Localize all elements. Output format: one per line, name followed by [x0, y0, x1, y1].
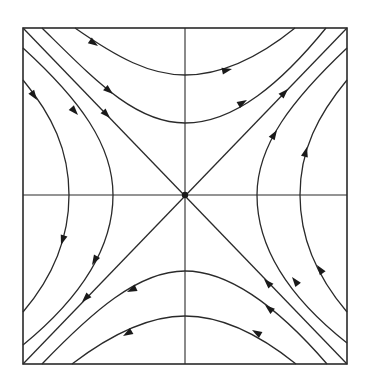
phase-portrait-diagram	[0, 0, 370, 391]
arrow-icon	[58, 234, 68, 246]
trajectory-left-outer	[23, 80, 69, 312]
trajectory-right-outer	[300, 80, 347, 312]
arrow-icon	[301, 146, 310, 157]
trajectory-bottom-outer	[72, 316, 296, 364]
saddle-point	[182, 192, 188, 198]
arrow-icon	[269, 128, 280, 140]
arrow-icon	[261, 277, 273, 289]
phase-portrait-svg	[0, 0, 370, 391]
trajectory-left-inner	[23, 48, 113, 345]
arrow-icon	[289, 275, 301, 287]
